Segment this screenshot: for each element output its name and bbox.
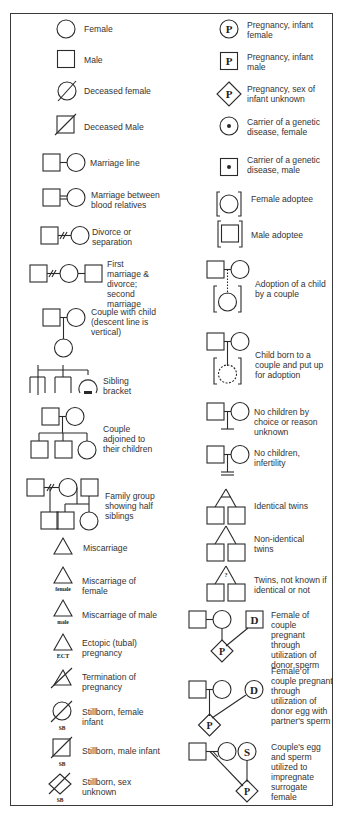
deceased-female-icon bbox=[56, 80, 78, 102]
label-nonidentical-twins: Non-identical twins bbox=[254, 534, 324, 554]
svg-text:SB: SB bbox=[57, 797, 64, 803]
svg-text:P: P bbox=[226, 23, 233, 35]
label-surrogate: Couple's egg and sperm utilized to impre… bbox=[271, 742, 331, 802]
svg-text:P: P bbox=[226, 55, 233, 67]
label-stillborn-male: Stillborn, male infant bbox=[82, 746, 162, 756]
label-pregnancy-female: Pregnancy, infant female bbox=[247, 20, 327, 40]
stillborn-male-icon: SB bbox=[50, 736, 74, 768]
label-pregnancy-unknown: Pregnancy, sex of infant unknown bbox=[247, 84, 329, 104]
twins-unknown-icon: ? bbox=[206, 565, 248, 603]
sibling-bracket-icon bbox=[30, 365, 100, 397]
svg-text:ECT: ECT bbox=[57, 653, 69, 659]
label-put-up-adoption: Child born to a couple and put up for ad… bbox=[255, 350, 330, 380]
svg-text:P: P bbox=[219, 646, 225, 657]
stillborn-unknown-icon: SB bbox=[47, 771, 75, 805]
label-miscarriage-female: Miscarriage of female bbox=[82, 576, 162, 596]
blood-marriage-icon bbox=[42, 187, 87, 209]
no-children-infertility-icon bbox=[206, 444, 251, 478]
label-divorce: Divorce or separation bbox=[92, 227, 162, 247]
no-children-choice-icon bbox=[206, 401, 251, 433]
svg-text:P: P bbox=[226, 88, 233, 100]
svg-text:?: ? bbox=[225, 572, 228, 578]
adoption-couple-icon bbox=[206, 259, 251, 315]
svg-text:male: male bbox=[57, 619, 69, 625]
male-adoptee-icon bbox=[217, 220, 243, 248]
surrogate-icon: SP bbox=[188, 740, 270, 804]
female-circle-icon bbox=[56, 19, 76, 39]
label-termination: Termination of pregnancy bbox=[82, 672, 152, 692]
svg-text:female: female bbox=[55, 586, 71, 592]
couple-children-icon bbox=[30, 406, 100, 468]
svg-text:D: D bbox=[250, 684, 258, 696]
male-square-icon bbox=[57, 50, 75, 68]
donor-egg-icon: DP bbox=[188, 678, 270, 740]
svg-text:D: D bbox=[251, 614, 259, 626]
svg-text:P: P bbox=[244, 786, 250, 797]
donor-sperm-icon: DP bbox=[188, 608, 270, 666]
miscarriage-male-icon: male bbox=[52, 599, 74, 627]
label-marriage-blood: Marriage between blood relatives bbox=[91, 190, 161, 210]
svg-text:S: S bbox=[244, 746, 250, 758]
label-male: Male bbox=[84, 55, 154, 65]
label-pregnancy-male: Pregnancy, infant male bbox=[247, 52, 327, 72]
label-twins-unknown: Twins, not known if identical or not bbox=[254, 575, 332, 595]
termination-icon bbox=[50, 667, 74, 689]
ectopic-icon: ECT bbox=[52, 633, 74, 661]
miscarriage-female-icon: female bbox=[52, 566, 74, 594]
svg-text:SB: SB bbox=[59, 725, 66, 731]
label-donor-sperm: Female of couple pregnant through utiliz… bbox=[271, 610, 331, 670]
pregnancy-female-icon: P bbox=[219, 19, 239, 39]
label-carrier-male: Carrier of a genetic disease, male bbox=[247, 155, 332, 175]
label-carrier-female: Carrier of a genetic disease, female bbox=[247, 117, 332, 137]
label-couple-child: Couple with child (descent line is verti… bbox=[91, 307, 156, 337]
label-ectopic: Ectopic (tubal) pregnancy bbox=[82, 638, 152, 658]
pregnancy-male-icon: P bbox=[220, 52, 238, 70]
label-deceased-female: Deceased female bbox=[84, 86, 164, 96]
pregnancy-unknown-icon: P bbox=[216, 81, 242, 107]
label-sibling-bracket: Sibling bracket bbox=[103, 376, 153, 396]
label-adoption-couple: Adoption of a child by a couple bbox=[255, 279, 330, 299]
marriage-line-icon bbox=[42, 152, 87, 174]
couple-with-child-icon bbox=[42, 307, 87, 357]
label-female-adoptee: Female adoptee bbox=[251, 194, 331, 204]
label-miscarriage-male: Miscarriage of male bbox=[82, 610, 162, 620]
label-half-siblings: Family group showing half siblings bbox=[105, 491, 160, 521]
miscarriage-triangle-icon bbox=[53, 537, 73, 555]
female-adoptee-icon bbox=[216, 191, 242, 217]
svg-text:P: P bbox=[206, 720, 212, 731]
stillborn-female-icon: SB bbox=[50, 700, 74, 732]
label-stillborn-unknown: Stillborn, sex unknown bbox=[82, 777, 152, 797]
label-couple-children: Couple adjoined to their children bbox=[103, 424, 158, 454]
carrier-male-icon bbox=[220, 158, 238, 176]
label-no-children-choice: No children by choice or reason unknown bbox=[254, 407, 332, 437]
label-deceased-male: Deceased Male bbox=[84, 122, 164, 132]
label-stillborn-female: Stillborn, female infant bbox=[82, 707, 152, 727]
identical-twins-icon bbox=[206, 488, 248, 526]
label-donor-egg: Female of couple pregnant through utiliz… bbox=[271, 666, 333, 726]
svg-text:SB: SB bbox=[59, 761, 66, 767]
put-up-adoption-icon bbox=[206, 331, 251, 387]
label-miscarriage: Miscarriage bbox=[83, 543, 153, 553]
label-male-adoptee: Male adoptee bbox=[251, 230, 331, 240]
label-female: Female bbox=[84, 24, 154, 34]
label-first-marriage: First marriage & divorce; second marriag… bbox=[107, 259, 157, 309]
label-identical-twins: Identical twins bbox=[254, 501, 329, 511]
first-marriage-divorce-icon bbox=[29, 263, 105, 285]
half-siblings-icon bbox=[26, 477, 106, 539]
divorce-icon bbox=[40, 225, 92, 247]
label-no-children-infertility: No children, infertility bbox=[254, 448, 332, 468]
carrier-female-icon bbox=[219, 116, 239, 136]
label-marriage-line: Marriage line bbox=[90, 158, 160, 168]
nonidentical-twins-icon bbox=[206, 525, 248, 563]
deceased-male-icon bbox=[55, 113, 77, 135]
